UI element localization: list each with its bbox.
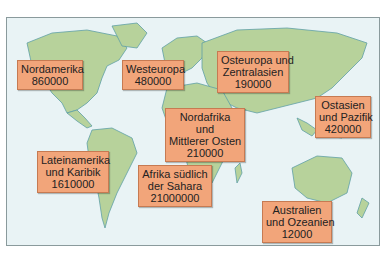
- region-label-ostasien-pazifik: Ostasien und Pazifik 420000: [315, 96, 371, 138]
- region-label-osteuropa-zentralasien: Osteuropa und Zentralasien 190000: [217, 51, 289, 93]
- region-name: Afrika südlich: [142, 168, 208, 180]
- region-name: Osteuropa und: [221, 54, 285, 66]
- region-label-afrika-suedlich-sahara: Afrika südlich der Sahara 21000000: [138, 165, 212, 207]
- world-map: Nordamerika 860000 Westeuropa 480000 Ost…: [6, 17, 380, 246]
- region-name: Australien: [266, 204, 328, 216]
- region-name: und Karibik: [41, 166, 105, 178]
- region-name: Ostasien: [319, 99, 367, 111]
- region-name: und Ozeanien: [266, 216, 328, 228]
- region-value: 860000: [21, 75, 79, 87]
- region-name: Mittlerer Osten: [169, 135, 241, 147]
- region-label-westeuropa: Westeuropa 480000: [122, 60, 184, 90]
- region-value: 420000: [319, 123, 367, 135]
- region-label-lateinamerika-karibik: Lateinamerika und Karibik 1610000: [37, 151, 109, 193]
- region-value: 210000: [169, 147, 241, 159]
- region-name: Westeuropa: [126, 63, 180, 75]
- region-name: Lateinamerika: [41, 154, 105, 166]
- region-value: 21000000: [142, 192, 208, 204]
- region-label-nordamerika: Nordamerika 860000: [17, 60, 83, 90]
- region-label-nordafrika-mittlerer-osten: Nordafrika und Mittlerer Osten 210000: [165, 108, 245, 162]
- region-value: 12000: [266, 228, 328, 240]
- region-name: und Pazifik: [319, 111, 367, 123]
- region-name: Zentralasien: [221, 66, 285, 78]
- region-name: Nordamerika: [21, 63, 79, 75]
- region-value: 480000: [126, 75, 180, 87]
- region-value: 1610000: [41, 178, 105, 190]
- region-value: 190000: [221, 78, 285, 90]
- region-name: Nordafrika: [169, 111, 241, 123]
- region-name: der Sahara: [142, 180, 208, 192]
- region-name: und: [169, 123, 241, 135]
- region-label-australien-ozeanien: Australien und Ozeanien 12000: [262, 201, 332, 243]
